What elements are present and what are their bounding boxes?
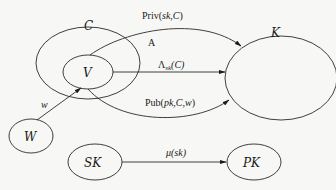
diagram-canvas: C V K W SK PK Priv(sk,C) A Λsk(C) Pub(pk…	[0, 0, 336, 190]
pub-label: Pub(pk,C,w)	[145, 97, 195, 109]
set-sk-label: SK	[84, 156, 102, 170]
a-label: A	[148, 37, 156, 48]
set-c-label: C	[84, 19, 93, 33]
priv-arrow	[90, 29, 241, 55]
set-pk-label: PK	[242, 156, 261, 170]
mu-label: μ(sk)	[165, 147, 187, 159]
set-w-label: W	[24, 130, 38, 144]
set-v-label: V	[83, 66, 93, 80]
set-k-ellipse	[225, 36, 336, 120]
lambda-label: Λsk(C)	[158, 59, 185, 72]
set-k-label: K	[270, 26, 281, 40]
priv-label: Priv(sk,C)	[142, 10, 183, 22]
w-label: w	[41, 99, 48, 110]
